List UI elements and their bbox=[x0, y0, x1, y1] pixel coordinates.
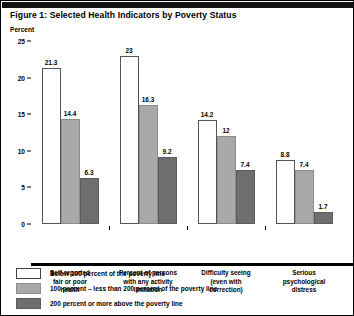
bar-value-label: 12 bbox=[222, 127, 229, 134]
bar bbox=[236, 170, 255, 224]
bar bbox=[295, 170, 314, 224]
bar-value-label: 14.4 bbox=[64, 110, 76, 117]
bar-value-label: 9.2 bbox=[163, 148, 172, 155]
plot-area: 0510152025 21.314.46.32316.39.214.2127.4… bbox=[31, 41, 343, 224]
legend-swatch bbox=[16, 298, 41, 309]
legend-label: Below 100 percent of the poverty line bbox=[50, 270, 165, 277]
legend-item: 100 percent – less than 200 percent of t… bbox=[16, 281, 217, 296]
legend-swatch bbox=[16, 268, 41, 279]
y-axis-tick-mark bbox=[27, 41, 31, 42]
legend-item: 200 percent or more above the poverty li… bbox=[16, 296, 217, 311]
y-axis-tick-label: 5 bbox=[1, 184, 25, 191]
top-rule-divider bbox=[2, 2, 354, 8]
y-axis-tick-mark bbox=[27, 224, 31, 225]
bar-value-label: 8.8 bbox=[281, 151, 290, 158]
y-axis-tick-label: 0 bbox=[1, 221, 25, 228]
legend-item: Below 100 percent of the poverty line bbox=[16, 266, 217, 281]
legend-label: 100 percent – less than 200 percent of t… bbox=[50, 285, 217, 292]
y-axis-tick-label: 20 bbox=[1, 74, 25, 81]
bar bbox=[80, 178, 99, 224]
bar-value-label: 7.4 bbox=[241, 161, 250, 168]
bar bbox=[276, 160, 295, 224]
bar-value-label: 21.3 bbox=[45, 59, 57, 66]
bar bbox=[42, 68, 61, 224]
bar-value-label: 6.3 bbox=[85, 169, 94, 176]
legend-label: 200 percent or more above the poverty li… bbox=[50, 300, 183, 307]
y-axis-tick-label: 25 bbox=[1, 38, 25, 45]
y-axis-tick-mark bbox=[27, 187, 31, 188]
bar bbox=[61, 119, 80, 224]
y-axis-tick-label: 10 bbox=[1, 147, 25, 154]
bar-value-label: 1.7 bbox=[319, 203, 328, 210]
bar bbox=[198, 120, 217, 224]
bar bbox=[139, 105, 158, 224]
bar bbox=[158, 157, 177, 224]
x-axis-category-label: Seriouspsychologicaldistress bbox=[262, 269, 346, 295]
bar bbox=[314, 212, 333, 224]
y-axis-tick-mark bbox=[27, 77, 31, 78]
legend: Below 100 percent of the poverty line100… bbox=[16, 266, 217, 311]
bar bbox=[217, 136, 236, 224]
bar bbox=[120, 56, 139, 224]
bar-value-label: 16.3 bbox=[142, 96, 154, 103]
group-separator-tick bbox=[265, 226, 266, 230]
bar-value-label: 7.4 bbox=[300, 161, 309, 168]
figure-container: Figure 1: Selected Health Indicators by … bbox=[0, 0, 354, 316]
bar-value-label: 14.2 bbox=[201, 111, 213, 118]
group-separator-tick bbox=[109, 226, 110, 230]
y-axis-tick-mark bbox=[27, 150, 31, 151]
bar-value-label: 23 bbox=[125, 47, 132, 54]
y-axis-tick-mark bbox=[27, 114, 31, 115]
legend-swatch bbox=[16, 283, 41, 294]
y-axis-unit-label: Percent bbox=[10, 26, 34, 33]
group-separator-tick bbox=[187, 226, 188, 230]
figure-title: Figure 1: Selected Health Indicators by … bbox=[10, 10, 237, 20]
y-axis-tick-label: 15 bbox=[1, 111, 25, 118]
